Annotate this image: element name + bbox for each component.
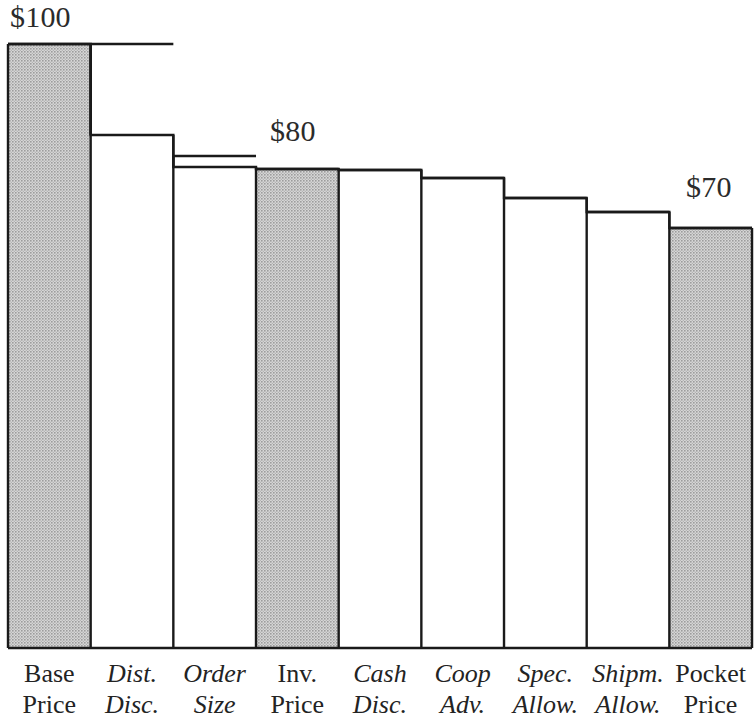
x-axis-label-line: Pocket (669, 658, 752, 689)
waterfall-plot-area (0, 0, 755, 724)
x-axis-label-order-size: OrderSize (173, 658, 256, 722)
x-axis-label-line: Dist. (91, 658, 174, 689)
bar-filled-pocket-price (669, 228, 752, 648)
x-axis-label-line: Disc. (339, 689, 422, 720)
bar-open-cash-disc- (339, 170, 422, 648)
x-axis-category-labels: BasePriceDist.Disc.OrderSizeInv.PriceCas… (8, 658, 752, 722)
x-axis-label-line: Inv. (256, 658, 339, 689)
bar-open-spec-allow- (504, 198, 587, 648)
bar-filled-inv-price (256, 169, 339, 648)
x-axis-label-line: Allow. (587, 689, 670, 720)
pocket-price-waterfall-chart: $100 $80 $70 BasePriceDist.Disc.OrderSiz… (0, 0, 755, 724)
value-label-pocket-price: $70 (686, 172, 732, 202)
x-axis-label-line: Disc. (91, 689, 174, 720)
bar-open-shipm-allow- (587, 212, 670, 648)
x-axis-label-spec-allow-: Spec.Allow. (504, 658, 587, 722)
x-axis-label-line: Price (8, 689, 91, 720)
bar-open-order-size (173, 156, 256, 648)
x-axis-label-coop-adv-: CoopAdv. (421, 658, 504, 722)
x-axis-label-pocket-price: PocketPrice (669, 658, 752, 722)
x-axis-label-line: Price (669, 689, 752, 720)
x-axis-label-line: Allow. (504, 689, 587, 720)
x-axis-label-inv-price: Inv.Price (256, 658, 339, 722)
x-axis-label-line: Shipm. (587, 658, 670, 689)
x-axis-label-line: Coop (421, 658, 504, 689)
x-axis-label-line: Adv. (421, 689, 504, 720)
x-axis-label-dist-disc-: Dist.Disc. (91, 658, 174, 722)
x-axis-label-line: Spec. (504, 658, 587, 689)
x-axis-label-line: Cash (339, 658, 422, 689)
x-axis-label-base-price: BasePrice (8, 658, 91, 722)
x-axis-label-line: Size (173, 689, 256, 720)
value-label-invoice-price: $80 (270, 116, 316, 146)
x-axis-label-line: Order (173, 658, 256, 689)
x-axis-label-line: Base (8, 658, 91, 689)
x-axis-label-cash-disc-: CashDisc. (339, 658, 422, 722)
value-label-base-price: $100 (10, 2, 71, 32)
bar-open-coop-adv- (421, 178, 504, 648)
x-axis-label-shipm-allow-: Shipm.Allow. (587, 658, 670, 722)
bar-filled-base-price (8, 44, 91, 648)
x-axis-label-line: Price (256, 689, 339, 720)
